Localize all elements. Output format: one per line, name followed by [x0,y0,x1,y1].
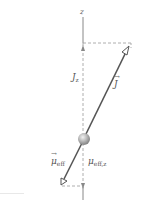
mu-label-main: μ [51,157,57,166]
faint-line [0,193,24,194]
jz-arrowhead-icon [81,45,85,51]
particle-sphere [78,133,90,145]
mu-label-sub: eff [57,160,65,167]
j-arrowhead-icon [122,46,129,55]
jz-label: Jz [72,73,79,83]
vector-diagram [0,0,151,209]
z-label-text: z [80,8,84,16]
mu-vector-line [64,141,83,179]
j-label: J [114,80,118,89]
j-vector-line [85,52,126,136]
z-axis-label: z [80,9,84,16]
muz-label-sub: eff,z [94,160,107,167]
mu-arrowhead-icon [61,178,67,185]
mu-eff-z-label: μeff,z [88,157,107,167]
j-label-text: J [114,80,118,89]
mu-eff-label: μeff [51,157,65,167]
jz-label-sub: z [76,76,79,83]
